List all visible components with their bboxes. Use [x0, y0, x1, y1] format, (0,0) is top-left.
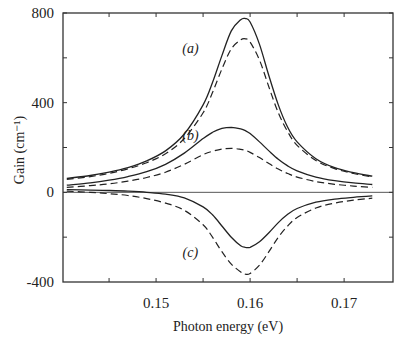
- series-a-solid-line: [67, 18, 373, 178]
- y-axis-label: Gain (cm⁻¹): [12, 115, 28, 184]
- curve-label-a: (a): [182, 41, 199, 57]
- series-b-solid-line: [67, 127, 373, 185]
- series-c-solid-line: [67, 190, 373, 248]
- ticks: [63, 13, 393, 282]
- y-tick-label: 0: [47, 184, 55, 200]
- gain-chart: 0.150.160.178004000-400 Photon energy (e…: [0, 0, 403, 351]
- axes-frame: [63, 13, 393, 282]
- x-tick-label: 0.17: [331, 295, 358, 311]
- x-axis-label: Photon energy (eV): [173, 319, 283, 335]
- y-tick-label: -400: [27, 274, 55, 290]
- y-tick-label: 400: [32, 95, 55, 111]
- annotations: (a)(b)(c): [182, 41, 199, 261]
- series-b-dashed-line: [67, 148, 373, 187]
- y-tick-label: 800: [32, 5, 55, 21]
- series-a-dashed-line: [67, 39, 373, 180]
- plot-area: [63, 18, 393, 274]
- x-tick-label: 0.16: [237, 295, 264, 311]
- curve-label-c: (c): [183, 245, 199, 261]
- curve-label-b: (b): [182, 128, 199, 144]
- series-c-dashed-line: [67, 191, 373, 274]
- x-tick-label: 0.15: [143, 295, 169, 311]
